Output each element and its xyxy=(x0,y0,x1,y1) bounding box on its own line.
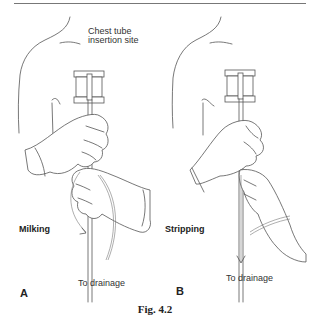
panel-a-drawing xyxy=(18,17,150,302)
label-to-drainage-b: To drainage xyxy=(226,273,273,283)
panel-b-drawing xyxy=(172,17,306,302)
panel-letter-b: B xyxy=(176,285,184,297)
label-stripping: Stripping xyxy=(165,224,205,234)
panel-letter-a: A xyxy=(20,287,28,299)
annotation-insertion-site: insertion site xyxy=(88,35,139,45)
label-to-drainage-a: To drainage xyxy=(78,278,125,288)
label-milking: Milking xyxy=(19,224,50,234)
figure-caption: Fig. 4.2 xyxy=(0,303,310,315)
